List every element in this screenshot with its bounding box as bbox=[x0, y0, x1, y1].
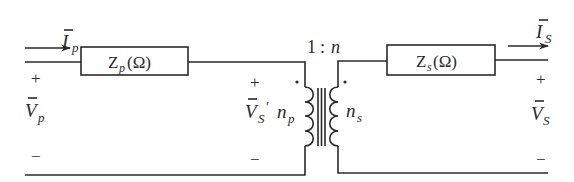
primary-coil bbox=[305, 87, 313, 146]
secondary-turns-label: n s bbox=[346, 100, 362, 125]
svg-text:I: I bbox=[535, 21, 544, 42]
secondary-minus-sign: − bbox=[536, 150, 546, 169]
primary-polarity-dot bbox=[295, 80, 298, 83]
svg-text:n: n bbox=[331, 37, 340, 57]
svg-text:(Ω): (Ω) bbox=[433, 52, 457, 71]
primary-plus-sign: + bbox=[31, 69, 41, 88]
svg-text:p: p bbox=[287, 111, 295, 126]
svg-text:Z: Z bbox=[108, 53, 118, 72]
svg-text:S: S bbox=[545, 31, 552, 46]
svg-text:′: ′ bbox=[266, 99, 269, 115]
secondary-impedance-label: Z s (Ω) bbox=[416, 52, 457, 74]
svg-text:(Ω): (Ω) bbox=[127, 53, 151, 72]
secondary-plus-sign: + bbox=[536, 70, 546, 89]
primary-minus-sign: − bbox=[31, 147, 41, 166]
referred-plus-sign: + bbox=[250, 73, 260, 92]
secondary-polarity-dot bbox=[343, 80, 346, 83]
secondary-voltage-label: V S bbox=[531, 101, 550, 128]
svg-text::: : bbox=[320, 37, 325, 57]
secondary-current-label: I S bbox=[535, 20, 552, 46]
secondary-coil bbox=[330, 87, 338, 146]
svg-text:1: 1 bbox=[307, 37, 316, 57]
svg-text:p: p bbox=[37, 110, 45, 125]
secondary-bottom-wire bbox=[338, 146, 548, 173]
svg-text:n: n bbox=[277, 101, 287, 122]
turns-ratio-label: 1 : n bbox=[307, 37, 340, 57]
svg-text:s: s bbox=[427, 60, 432, 74]
svg-text:p: p bbox=[118, 61, 125, 75]
primary-voltage-label: V p bbox=[25, 98, 45, 125]
svg-text:n: n bbox=[346, 100, 356, 121]
primary-bottom-wire bbox=[25, 146, 305, 175]
referred-voltage-label: V S ′ bbox=[245, 99, 269, 126]
primary-impedance-label: Z p (Ω) bbox=[108, 53, 151, 75]
svg-text:p: p bbox=[71, 40, 79, 55]
referred-minus-sign: − bbox=[250, 150, 260, 169]
svg-text:s: s bbox=[357, 110, 362, 125]
primary-turns-label: n p bbox=[277, 101, 295, 126]
primary-current-label: I p bbox=[61, 30, 79, 55]
transformer bbox=[295, 80, 346, 146]
svg-text:Z: Z bbox=[416, 52, 426, 71]
svg-text:V: V bbox=[25, 100, 39, 121]
transformer-circuit-diagram: I p Z p (Ω) + V p − 1 : n + V S ′ n p n … bbox=[0, 0, 574, 182]
svg-text:S: S bbox=[258, 111, 265, 126]
svg-text:S: S bbox=[543, 113, 550, 128]
primary-top-wire-right bbox=[188, 62, 305, 87]
svg-text:V: V bbox=[245, 101, 259, 122]
svg-text:I: I bbox=[61, 31, 70, 52]
